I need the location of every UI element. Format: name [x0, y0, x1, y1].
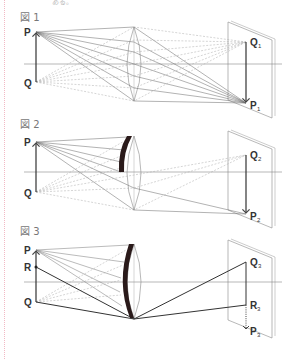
figure-2: 図 2 P Q Q 2 P: [20, 119, 282, 228]
label-R: R: [24, 262, 32, 273]
svg-text:2: 2: [257, 217, 261, 223]
svg-text:1: 1: [257, 106, 261, 112]
svg-text:1: 1: [258, 43, 262, 49]
svg-text:2: 2: [258, 156, 262, 162]
label-Q2: Q: [250, 150, 258, 161]
figure-2-label: 図 2: [20, 119, 40, 130]
label-P3: P: [250, 326, 257, 337]
figure-3: 図 3 P: [20, 226, 282, 338]
figure-3-label: 図 3: [20, 226, 40, 237]
label-P2: P: [250, 211, 257, 222]
point-R: [35, 266, 38, 269]
screen-3: [228, 240, 272, 338]
aperture-stop-3: [123, 244, 134, 318]
figure-1: 図 1: [20, 12, 282, 118]
optics-diagram: 図 1: [0, 0, 296, 359]
aperture-stop-2: [119, 136, 132, 172]
svg-text:3: 3: [257, 306, 261, 312]
label-P1: P: [250, 100, 257, 111]
label-P: P: [24, 245, 31, 256]
label-P: P: [24, 27, 31, 38]
figure-1-label: 図 1: [20, 12, 40, 23]
label-Q1: Q: [250, 37, 258, 48]
label-Q: Q: [24, 297, 32, 308]
label-Q: Q: [24, 188, 32, 199]
label-Q3: Q: [250, 257, 258, 268]
label-Q: Q: [24, 78, 32, 89]
svg-text:3: 3: [258, 263, 262, 269]
label-P: P: [24, 137, 31, 148]
